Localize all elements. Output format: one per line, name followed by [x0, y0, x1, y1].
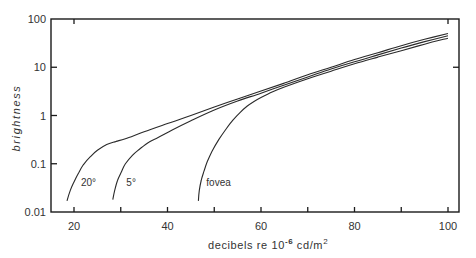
- y-tick-label: 100: [28, 13, 46, 25]
- x-axis-title-main: decibels re 10: [208, 239, 285, 251]
- x-axis-title-exponent: -6: [285, 237, 293, 246]
- curve-fovea: [198, 38, 448, 201]
- curve-label-fovea: fovea: [206, 177, 231, 188]
- curve-label-5-deg: 5°: [126, 177, 136, 188]
- curves: [67, 34, 448, 201]
- brightness-chart: 20406080100 1001010.10.01 20°5°fovea bri…: [0, 0, 476, 258]
- plot-frame: [51, 19, 459, 212]
- curve-label-20-deg: 20°: [81, 177, 96, 188]
- curve-5-deg: [113, 36, 448, 200]
- x-tick-label: 20: [68, 220, 80, 232]
- y-tick-label: 1: [40, 110, 46, 122]
- x-tick-label: 80: [348, 220, 360, 232]
- x-axis-title-unit-exponent: 2: [323, 237, 328, 246]
- plot-border: [51, 19, 459, 212]
- x-axis-title-unit: cd/m: [293, 239, 323, 251]
- x-tick-label: 60: [255, 220, 267, 232]
- curve-labels: 20°5°fovea: [81, 177, 231, 188]
- y-tick-label: 0.01: [25, 206, 46, 218]
- y-tick-label: 10: [34, 61, 46, 73]
- x-tick-label: 100: [439, 220, 457, 232]
- x-tick-label: 40: [161, 220, 173, 232]
- curve-20-deg: [67, 34, 448, 201]
- x-axis-title: decibels re 10-6 cd/m2: [208, 237, 328, 251]
- y-axis-title: brightness: [10, 85, 22, 152]
- y-tick-label: 0.1: [31, 158, 46, 170]
